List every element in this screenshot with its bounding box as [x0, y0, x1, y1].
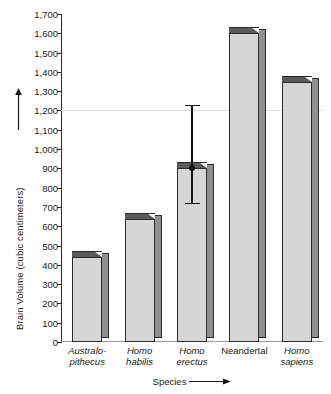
- y-tick-mark: [57, 342, 62, 343]
- x-tick-label: Homosapiens: [265, 345, 329, 367]
- x-axis-tick-labels: Australo-pithecusHomohabilisHomoerectusN…: [61, 345, 323, 375]
- y-tick-mark: [57, 72, 62, 73]
- bar: [282, 82, 312, 342]
- x-axis-title-group: Species: [61, 376, 323, 387]
- y-tick-label: 200: [20, 299, 58, 309]
- plot-area: [61, 14, 323, 342]
- y-tick-mark: [57, 207, 62, 208]
- bar-front-face: [72, 257, 102, 342]
- y-tick-label: 1,600: [20, 29, 58, 39]
- bar-side-face: [155, 215, 162, 338]
- y-axis-line: [61, 14, 62, 342]
- y-tick-label: 1,200: [20, 106, 58, 116]
- y-tick-mark: [57, 246, 62, 247]
- bar-top-face: [229, 28, 259, 33]
- y-tick-label: 600: [20, 222, 58, 232]
- bar-front-face: [229, 33, 259, 342]
- bar-side-face: [259, 29, 266, 338]
- x-tick-label-line: sapiens: [265, 356, 329, 367]
- y-tick-mark: [57, 265, 62, 266]
- bar: [72, 257, 102, 342]
- bar: [125, 219, 155, 342]
- bar-side-face: [102, 253, 109, 338]
- bar-top-edge: [282, 76, 312, 77]
- y-tick-label: 100: [20, 318, 58, 328]
- brain-volume-bar-chart: Brain Volume (cubic centimeters) 0100200…: [0, 0, 331, 394]
- bar-top-face: [72, 252, 102, 257]
- bar: [229, 33, 259, 342]
- bar-side-face: [312, 78, 319, 338]
- y-tick-label: 1,300: [20, 87, 58, 97]
- bar-front-face: [282, 82, 312, 342]
- error-bar-mean-marker: [189, 165, 195, 171]
- bar-front-face: [125, 219, 155, 342]
- bar-top-face: [125, 214, 155, 219]
- bar-top-edge: [229, 27, 259, 28]
- bar-top-edge: [125, 213, 155, 214]
- error-bar-cap-top: [185, 105, 200, 106]
- y-tick-label: 700: [20, 202, 58, 212]
- error-bar: [182, 105, 202, 203]
- y-tick-label: 0: [20, 338, 58, 348]
- error-bar-stem: [191, 105, 192, 203]
- y-tick-mark: [57, 323, 62, 324]
- x-axis-title: Species: [153, 376, 187, 387]
- y-axis-tick-labels: 01002003004005006007008009001,0001,1001,…: [14, 0, 58, 360]
- y-tick-mark: [57, 188, 62, 189]
- bar-top-face: [282, 77, 312, 82]
- y-tick-label: 1,000: [20, 145, 58, 155]
- y-tick-label: 400: [20, 260, 58, 270]
- x-axis-arrow-icon: [189, 377, 231, 386]
- y-tick-mark: [57, 130, 62, 131]
- y-tick-label: 900: [20, 164, 58, 174]
- x-tick-label-line: Homo: [265, 345, 329, 356]
- y-tick-label: 500: [20, 241, 58, 251]
- y-tick-mark: [57, 14, 62, 15]
- y-tick-label: 1,100: [20, 125, 58, 135]
- error-bar-cap-bottom: [185, 203, 200, 204]
- y-tick-mark: [57, 149, 62, 150]
- y-tick-label: 800: [20, 183, 58, 193]
- y-tick-mark: [57, 168, 62, 169]
- y-tick-label: 1,700: [20, 10, 58, 20]
- y-tick-mark: [57, 303, 62, 304]
- x-tick-label-line: erectus: [160, 356, 224, 367]
- y-tick-mark: [57, 91, 62, 92]
- y-tick-mark: [57, 53, 62, 54]
- y-tick-label: 300: [20, 280, 58, 290]
- y-tick-label: 1,500: [20, 48, 58, 58]
- y-tick-mark: [57, 284, 62, 285]
- y-tick-label: 1,400: [20, 67, 58, 77]
- y-tick-mark: [57, 226, 62, 227]
- y-tick-mark: [57, 33, 62, 34]
- bar-top-edge: [72, 251, 102, 252]
- bar-side-face: [207, 164, 214, 338]
